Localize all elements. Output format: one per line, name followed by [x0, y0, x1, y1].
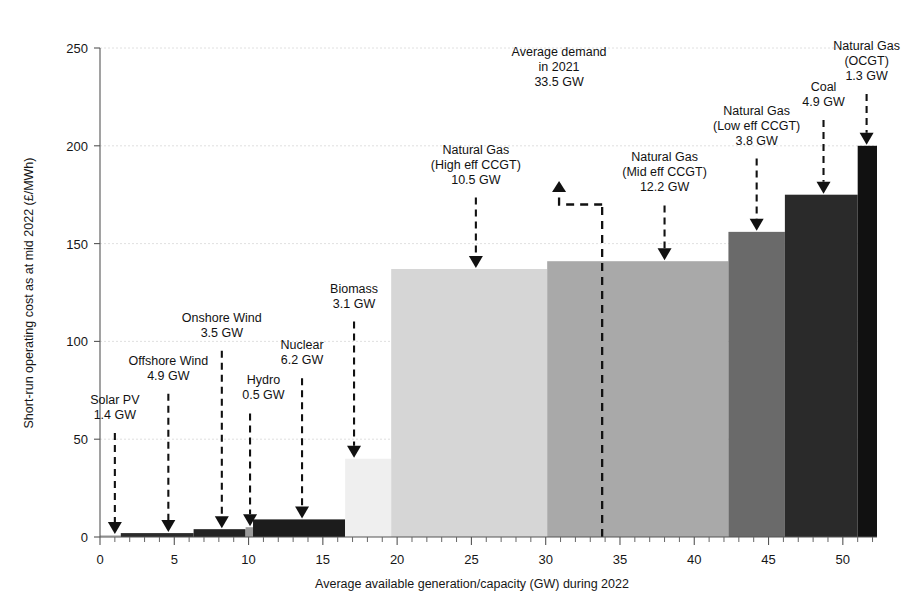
annotation-mid-eff-ccgt-arrowhead [658, 248, 672, 260]
annotation-high-eff-ccgt-line-2: (High eff CCGT) [431, 158, 521, 172]
y-tick-label-100: 100 [66, 334, 88, 349]
bar-onshore-wind: Onshore Wind — 3.5 GW, 4 £/MWh [194, 529, 246, 537]
annotation-low-eff-ccgt-arrowhead [750, 219, 764, 231]
annotation-average-demand-arrowhead [552, 181, 566, 192]
x-tick-label-45: 45 [761, 552, 775, 567]
annotation-onshore-wind-arrowhead [215, 516, 229, 528]
x-tick-label-10: 10 [241, 552, 255, 567]
annotation-nuclear-arrowhead [295, 506, 309, 518]
annotation-offshore-wind-arrowhead [161, 520, 175, 532]
annotation-offshore-wind: Offshore Wind4.9 GW [129, 354, 209, 532]
x-axis-title: Average available generation/capacity (G… [315, 577, 629, 591]
annotation-mid-eff-ccgt-line-2: (Mid eff CCGT) [622, 165, 707, 179]
annotation-average-demand-line-1: Average demand [512, 45, 607, 59]
annotation-nuclear-line-1: Nuclear [281, 338, 324, 352]
y-tick-label-150: 150 [66, 237, 88, 252]
annotation-hydro-line-2: 0.5 GW [242, 388, 285, 402]
merit-order-chart: Solar PV — 1.4 GW, 1 £/MWhOffshore Wind … [0, 0, 908, 610]
annotation-biomass-arrowhead [347, 446, 361, 458]
annotation-ocgt-arrowhead [860, 133, 874, 145]
average-demand-elbow-connector [559, 181, 602, 204]
annotation-mid-eff-ccgt-line-1: Natural Gas [631, 150, 698, 164]
x-tick-label-40: 40 [687, 552, 701, 567]
annotation-coal-line-2: 4.9 GW [802, 95, 845, 109]
annotation-offshore-wind-line-2: 4.9 GW [147, 369, 190, 383]
annotation-coal-line-1: Coal [811, 80, 837, 94]
annotation-ocgt: Natural Gas(OCGT)1.3 GW [833, 39, 900, 145]
annotation-solar-pv-arrowhead [108, 522, 122, 534]
annotation-coal-arrowhead [817, 182, 831, 194]
annotation-mid-eff-ccgt-line-3: 12.2 GW [640, 180, 690, 194]
annotation-ocgt-line-2: (OCGT) [844, 54, 888, 68]
y-tick-label-200: 200 [66, 139, 88, 154]
bar-natural-gas-low-eff-ccgt: Natural Gas (Low eff CCGT) — 3.8 GW, 156… [728, 232, 784, 537]
annotation-high-eff-ccgt-arrowhead [469, 256, 483, 268]
annotation-ocgt-line-1: Natural Gas [833, 39, 900, 53]
y-axis-title: Short-run operating cost as at mid 2022 … [22, 158, 36, 429]
bar-natural-gas-high-eff-ccgt: Natural Gas (High eff CCGT) — 10.5 GW, 1… [391, 269, 547, 537]
bar-natural-gas-mid-eff-ccgt: Natural Gas (Mid eff CCGT) — 12.2 GW, 14… [547, 261, 728, 537]
annotation-average-demand-line-2: in 2021 [539, 60, 580, 74]
chart-canvas: Solar PV — 1.4 GW, 1 £/MWhOffshore Wind … [0, 0, 908, 610]
bar-offshore-wind: Offshore Wind — 4.9 GW, 2 £/MWh [121, 533, 194, 537]
x-tick-label-0: 0 [96, 552, 103, 567]
annotation-nuclear-line-2: 6.2 GW [281, 353, 324, 367]
annotation-solar-pv: Solar PV1.4 GW [90, 393, 140, 534]
annotation-hydro-line-1: Hydro [247, 373, 280, 387]
annotation-onshore-wind-line-1: Onshore Wind [182, 311, 262, 325]
x-tick-label-20: 20 [390, 552, 404, 567]
annotation-nuclear: Nuclear6.2 GW [281, 338, 324, 518]
annotation-average-demand-line-3: 33.5 GW [534, 75, 584, 89]
annotation-biomass-line-1: Biomass [330, 282, 378, 296]
annotation-solar-pv-line-1: Solar PV [90, 393, 140, 407]
bar-hydro: Hydro — 0.5 GW, 5 £/MWh [246, 527, 253, 537]
annotation-high-eff-ccgt: Natural Gas(High eff CCGT)10.5 GW [431, 143, 521, 268]
bar-biomass: Biomass — 3.1 GW, 40 £/MWh [345, 459, 391, 537]
annotation-ocgt-line-3: 1.3 GW [845, 69, 888, 83]
bar-nuclear: Nuclear — 6.2 GW, 9 £/MWh [253, 519, 345, 537]
x-tick-label-30: 30 [538, 552, 552, 567]
annotation-offshore-wind-line-1: Offshore Wind [129, 354, 209, 368]
annotation-onshore-wind-line-2: 3.5 GW [201, 326, 244, 340]
annotation-low-eff-ccgt-line-3: 3.8 GW [735, 134, 778, 148]
annotation-hydro: Hydro0.5 GW [242, 373, 285, 526]
annotation-biomass: Biomass3.1 GW [330, 282, 378, 458]
annotation-low-eff-ccgt-line-1: Natural Gas [723, 104, 790, 118]
x-tick-label-35: 35 [613, 552, 627, 567]
x-tick-label-5: 5 [171, 552, 178, 567]
y-tick-label-250: 250 [66, 41, 88, 56]
y-tick-label-0: 0 [81, 530, 88, 545]
bar-natural-gas-ocgt: Natural Gas (OCGT) — 1.3 GW, 200 £/MWh [858, 146, 877, 537]
x-tick-label-50: 50 [836, 552, 850, 567]
annotation-high-eff-ccgt-line-1: Natural Gas [443, 143, 510, 157]
annotation-solar-pv-line-2: 1.4 GW [94, 408, 137, 422]
bar-coal: Coal — 4.9 GW, 175 £/MWh [785, 195, 858, 537]
annotation-low-eff-ccgt-line-2: (Low eff CCGT) [713, 119, 800, 133]
annotation-coal: Coal4.9 GW [802, 80, 845, 194]
annotation-mid-eff-ccgt: Natural Gas(Mid eff CCGT)12.2 GW [622, 150, 707, 260]
annotation-biomass-line-2: 3.1 GW [333, 297, 376, 311]
x-tick-label-25: 25 [464, 552, 478, 567]
annotation-high-eff-ccgt-line-3: 10.5 GW [451, 173, 501, 187]
annotation-average-demand: Average demandin 202133.5 GW [512, 45, 607, 192]
x-tick-label-15: 15 [316, 552, 330, 567]
y-tick-label-50: 50 [74, 432, 88, 447]
